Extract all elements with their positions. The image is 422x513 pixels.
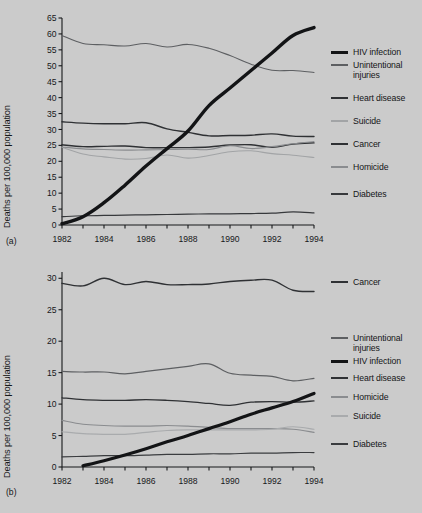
- x-tick-label: 1988: [178, 476, 197, 486]
- legend-swatch: [331, 193, 348, 195]
- y-tick-label: 45: [47, 77, 57, 87]
- legend-swatch: [331, 415, 348, 416]
- series-line: [62, 420, 314, 432]
- series-line: [62, 143, 314, 148]
- y-tick-label: 55: [47, 45, 57, 55]
- y-tick-label: 20: [47, 156, 57, 166]
- x-tick-label: 1982: [52, 234, 71, 244]
- legend-label: Homicide: [353, 392, 388, 402]
- x-tick-label: 1994: [304, 476, 323, 486]
- x-tick-label: 1986: [136, 234, 155, 244]
- series-line: [62, 364, 314, 381]
- x-tick-label: 1990: [220, 476, 239, 486]
- y-tick-label: 65: [47, 13, 57, 23]
- y-tick-label: 5: [52, 204, 57, 214]
- y-tick-label: 0: [52, 220, 57, 230]
- legend-swatch: [331, 120, 348, 121]
- x-tick-label: 1990: [220, 234, 239, 244]
- legend-swatch: [331, 51, 348, 54]
- y-tick-label: 10: [47, 188, 57, 198]
- y-tick-label: 5: [52, 431, 57, 441]
- series-line: [62, 427, 314, 435]
- legend-label: Diabetes: [353, 189, 387, 199]
- legend-swatch: [331, 360, 348, 363]
- legend-label: Heart disease: [353, 373, 405, 383]
- legend-label: HIV infection: [353, 47, 401, 57]
- x-tick-label: 1982: [52, 476, 71, 486]
- y-tick-label: 10: [47, 399, 57, 409]
- y-tick-label: 15: [47, 172, 57, 182]
- y-tick-label: 25: [47, 305, 57, 315]
- x-tick-label: 1992: [262, 476, 281, 486]
- legend-label: Homicide: [353, 162, 388, 172]
- legend-swatch: [331, 97, 348, 99]
- legend-label: Unintentional injuries: [353, 60, 415, 81]
- x-tick-label: 1986: [136, 476, 155, 486]
- y-tick-label: 30: [47, 125, 57, 135]
- legend-label: Diabetes: [353, 439, 387, 449]
- x-tick-label: 1984: [94, 476, 113, 486]
- legend-label: Heart disease: [353, 93, 405, 103]
- plot-area-a: 0510152025303540455055606519821984198619…: [0, 0, 422, 258]
- series-line: [62, 278, 314, 291]
- x-tick-label: 1988: [178, 234, 197, 244]
- series-line: [62, 452, 314, 456]
- legend-label: Suicide: [353, 411, 381, 421]
- legend-swatch: [331, 377, 348, 379]
- y-tick-label: 60: [47, 29, 57, 39]
- chart-panel-b: Deaths per 100,000 population (b) 051015…: [0, 256, 422, 513]
- y-tick-label: 25: [47, 140, 57, 150]
- legend-swatch: [331, 443, 348, 445]
- plot-area-b: 0510152025301982198419861988199019921994: [0, 256, 422, 513]
- legend-label: Suicide: [353, 116, 381, 126]
- figure-canvas: Deaths per 100,000 population (a) 051015…: [0, 0, 422, 513]
- legend-swatch: [331, 166, 348, 167]
- y-tick-label: 40: [47, 93, 57, 103]
- series-line: [62, 36, 314, 73]
- legend-swatch: [331, 281, 348, 283]
- legend-label: Cancer: [353, 139, 380, 149]
- series-line: [62, 212, 314, 217]
- legend-swatch: [331, 143, 348, 145]
- series-line: [62, 28, 314, 224]
- legend-swatch: [331, 337, 348, 339]
- y-tick-label: 30: [47, 273, 57, 283]
- y-tick-label: 15: [47, 368, 57, 378]
- x-tick-label: 1992: [262, 234, 281, 244]
- series-line: [62, 398, 314, 406]
- x-tick-label: 1994: [304, 234, 323, 244]
- chart-panel-a: Deaths per 100,000 population (a) 051015…: [0, 0, 422, 258]
- y-tick-label: 20: [47, 336, 57, 346]
- y-tick-label: 35: [47, 109, 57, 119]
- legend-label: HIV infection: [353, 356, 401, 366]
- legend-label: Cancer: [353, 277, 380, 287]
- legend-swatch: [331, 396, 348, 397]
- x-tick-label: 1984: [94, 234, 113, 244]
- y-tick-label: 0: [52, 462, 57, 472]
- y-tick-label: 50: [47, 61, 57, 71]
- legend-swatch: [331, 64, 348, 66]
- legend-label: Unintentional injuries: [353, 333, 415, 354]
